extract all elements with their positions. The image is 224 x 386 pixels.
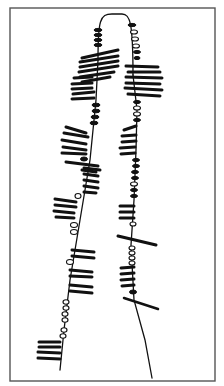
right-chromomere	[131, 182, 138, 186]
lampbrush-chromosome-figure	[0, 0, 224, 386]
left-chromomere	[63, 300, 69, 304]
left-chromomere	[67, 260, 74, 265]
left-loop	[70, 276, 92, 277]
right-chromomere	[132, 170, 139, 173]
left-loop	[72, 256, 94, 258]
left-chromomere	[75, 194, 81, 199]
right-loop	[120, 147, 135, 148]
right-chromomere	[129, 261, 135, 265]
right-chromomere	[133, 158, 140, 161]
left-loop	[72, 83, 92, 84]
left-chromomere	[94, 43, 102, 46]
left-chromomere	[62, 318, 68, 322]
left-chromomere	[92, 109, 100, 113]
left-chromomere	[81, 157, 88, 161]
left-chromomere	[62, 312, 68, 316]
right-chromomere	[134, 56, 140, 59]
right-chromomere	[130, 290, 137, 294]
left-loop	[72, 88, 92, 89]
left-chromomere	[90, 121, 98, 125]
right-loop	[124, 298, 158, 309]
left-strand-loops	[38, 50, 118, 359]
right-loop	[118, 236, 156, 245]
left-loop	[70, 291, 92, 293]
right-loop	[121, 153, 135, 154]
right-chromomere	[129, 246, 135, 250]
right-chromomere	[128, 23, 136, 26]
left-loop	[66, 127, 86, 133]
right-chromomere	[129, 251, 135, 255]
left-loop	[38, 358, 60, 359]
left-loop	[55, 205, 76, 207]
left-loop	[84, 186, 98, 188]
right-strand-chromomeres	[128, 23, 141, 294]
left-loop	[84, 174, 98, 176]
left-chromomere	[94, 38, 102, 41]
left-loop	[56, 217, 74, 218]
left-loop	[72, 98, 94, 99]
right-loop	[122, 135, 136, 136]
right-chromomere	[134, 112, 141, 116]
right-chromomere	[134, 100, 141, 103]
right-chromomere	[134, 106, 141, 110]
right-strand	[118, 23, 162, 378]
right-chromomere	[132, 176, 139, 179]
left-chromomere	[71, 230, 78, 235]
left-loop	[72, 250, 94, 252]
left-loop	[84, 180, 98, 182]
right-chromomere	[134, 50, 141, 53]
left-chromomere	[94, 28, 102, 31]
left-chromomere	[94, 33, 102, 36]
right-loop	[121, 273, 134, 274]
left-loop	[82, 170, 96, 172]
left-loop	[62, 153, 86, 154]
right-chromomere	[133, 44, 140, 48]
right-loop	[125, 88, 162, 90]
right-loop	[122, 285, 134, 286]
right-chromomere	[132, 37, 139, 41]
right-loop	[126, 66, 158, 67]
right-chromomere	[131, 188, 138, 191]
right-loop	[124, 126, 136, 130]
right-loop	[122, 141, 136, 142]
left-loop	[70, 270, 92, 272]
right-loop	[126, 77, 162, 78]
right-loop	[121, 267, 134, 268]
right-chromomere	[134, 118, 141, 121]
left-loop	[70, 285, 92, 287]
left-chromomere	[71, 223, 78, 228]
right-chromomere	[133, 164, 140, 167]
left-loop	[84, 192, 96, 193]
left-loop	[62, 140, 86, 144]
left-loop	[55, 199, 76, 202]
figure-frame	[10, 8, 215, 381]
left-chromomere	[91, 115, 99, 119]
left-loop	[73, 92, 94, 94]
right-chromomere	[129, 256, 135, 260]
left-strand	[38, 28, 118, 370]
right-loop	[121, 279, 134, 280]
left-loop	[74, 77, 92, 78]
right-loop	[126, 83, 160, 84]
left-loop	[38, 352, 60, 353]
left-loop	[63, 147, 86, 150]
left-loop	[66, 162, 98, 166]
left-chromomere	[92, 103, 100, 107]
left-chromomere	[61, 328, 67, 332]
left-loop	[54, 211, 74, 213]
left-chromomere	[60, 334, 66, 338]
right-chromomere	[131, 30, 138, 34]
right-loop	[128, 94, 160, 96]
left-chromomere	[63, 306, 69, 310]
right-chromomere	[130, 222, 136, 226]
right-chromomere	[131, 194, 138, 197]
